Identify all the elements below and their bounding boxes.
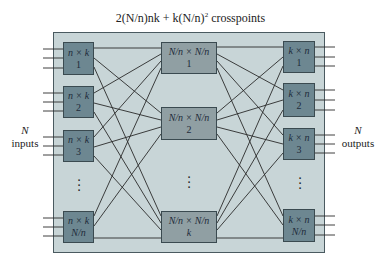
- outputs-count: N: [336, 124, 380, 137]
- switch-index: k: [187, 227, 191, 239]
- outputs-label: N outputs: [336, 124, 380, 150]
- middle-ellipsis: ···: [184, 175, 194, 190]
- output-switch-1: k × n 1: [283, 41, 315, 73]
- switch-dims: k × n: [288, 132, 309, 144]
- middle-switch-2: N/n × N/n 2: [161, 107, 217, 140]
- switch-index: 2: [187, 124, 192, 136]
- switch-dims: N/n × N/n: [169, 46, 210, 58]
- outputs-text: outputs: [342, 137, 374, 149]
- switch-index: 2: [297, 100, 302, 112]
- switch-dims: n × k: [68, 47, 89, 59]
- switch-dims: N/n × N/n: [169, 112, 210, 124]
- switch-dims: k × n: [288, 88, 309, 100]
- input-switch-last: n × k N/n: [63, 211, 94, 243]
- input-ellipsis: ···: [74, 178, 84, 193]
- middle-switch-last: N/n × N/n k: [161, 211, 217, 243]
- output-switch-last: k × n N/n: [283, 209, 315, 242]
- switch-index: 1: [297, 57, 302, 69]
- switch-dims: N/n × N/n: [169, 215, 210, 227]
- switch-dims: k × n: [288, 214, 309, 226]
- output-ellipsis: ···: [295, 176, 305, 191]
- switch-dims: n × k: [68, 215, 89, 227]
- input-switch-1: n × k 1: [63, 42, 94, 75]
- switch-index: N/n: [71, 227, 85, 239]
- switch-index: 2: [76, 102, 81, 114]
- inputs-text: inputs: [12, 137, 39, 149]
- switch-index: N/n: [292, 226, 306, 238]
- inputs-label: N inputs: [6, 124, 44, 150]
- input-switch-3: n × k 3: [63, 130, 94, 162]
- switch-index: 1: [187, 58, 192, 70]
- switch-dims: n × k: [68, 90, 89, 102]
- inputs-count: N: [6, 124, 44, 137]
- output-switch-2: k × n 2: [283, 83, 315, 117]
- switch-index: 3: [76, 146, 81, 158]
- switch-dims: n × k: [68, 134, 89, 146]
- output-switch-3: k × n 3: [283, 128, 315, 160]
- switch-index: 1: [76, 59, 81, 71]
- middle-switch-1: N/n × N/n 1: [161, 42, 217, 74]
- switch-index: 3: [297, 144, 302, 156]
- input-switch-2: n × k 2: [63, 86, 94, 118]
- switch-dims: k × n: [288, 45, 309, 57]
